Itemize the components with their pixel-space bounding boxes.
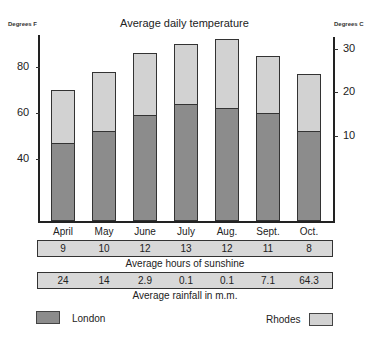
rainfall-table: 24 14 2.9 0.1 0.1 7.1 64.3	[37, 272, 333, 289]
month-label: June	[125, 226, 165, 237]
sunshine-cell: 8	[289, 243, 329, 254]
right-tick-label: 10	[343, 129, 355, 141]
month-label: July	[166, 226, 206, 237]
rainfall-cell: 2.9	[125, 275, 165, 286]
right-tick-label: 30	[343, 42, 355, 54]
left-tick	[36, 159, 40, 160]
bar-london	[133, 115, 157, 221]
month-label: April	[43, 226, 83, 237]
x-axis-baseline	[38, 221, 335, 223]
bar-london	[297, 131, 321, 221]
sunshine-cell: 9	[43, 243, 83, 254]
left-y-axis	[38, 35, 40, 222]
right-tick	[334, 49, 338, 50]
right-tick	[334, 92, 338, 93]
rainfall-caption: Average rainfall in m.m.	[37, 290, 333, 301]
left-tick-label: 60	[17, 106, 29, 118]
legend-swatch-rhodes	[309, 313, 333, 326]
legend-label-rhodes: Rhodes	[266, 314, 300, 325]
sunshine-cell: 12	[125, 243, 165, 254]
bar-london	[215, 108, 239, 221]
left-tick	[36, 67, 40, 68]
bar-london	[174, 104, 198, 221]
left-tick	[36, 113, 40, 114]
sunshine-table: 9 10 12 13 12 11 8	[37, 240, 333, 257]
rainfall-cell: 24	[43, 275, 83, 286]
rainfall-cell: 64.3	[289, 275, 329, 286]
month-label: Aug.	[207, 226, 247, 237]
left-tick-label: 40	[17, 152, 29, 164]
right-tick-label: 20	[343, 85, 355, 97]
month-label: Sept.	[248, 226, 288, 237]
right-tick	[334, 136, 338, 137]
bar-london	[92, 131, 116, 221]
month-label: Oct.	[289, 226, 329, 237]
bar-london	[256, 113, 280, 221]
right-y-axis	[333, 37, 335, 223]
legend-label-london: London	[72, 313, 105, 324]
month-label: May	[84, 226, 124, 237]
sunshine-cell: 11	[248, 243, 288, 254]
rainfall-cell: 14	[84, 275, 124, 286]
bar-london	[51, 143, 75, 221]
sunshine-cell: 10	[84, 243, 124, 254]
legend-swatch-london	[36, 311, 60, 324]
plot-area: 80 60 40 30 20 10	[0, 0, 372, 230]
sunshine-caption: Average hours of sunshine	[37, 258, 333, 269]
rainfall-cell: 0.1	[166, 275, 206, 286]
rainfall-cell: 7.1	[248, 275, 288, 286]
sunshine-cell: 13	[166, 243, 206, 254]
sunshine-cell: 12	[207, 243, 247, 254]
left-tick-label: 80	[17, 60, 29, 72]
rainfall-cell: 0.1	[207, 275, 247, 286]
